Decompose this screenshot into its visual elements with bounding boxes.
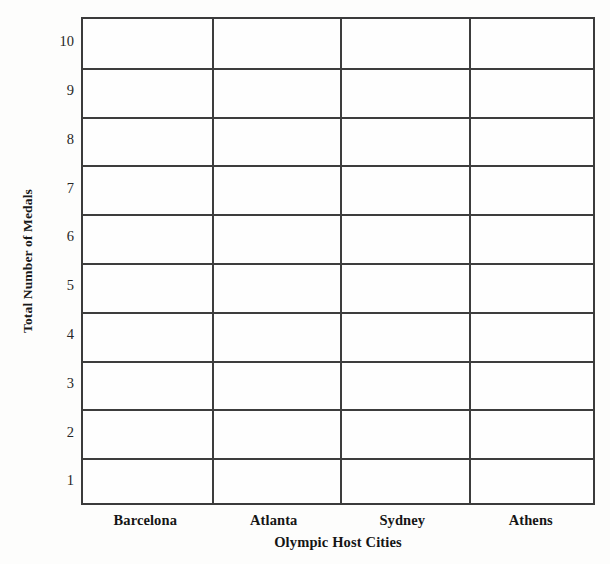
gridline-horizontal	[83, 165, 593, 167]
gridline-horizontal	[83, 361, 593, 363]
x-axis-title: Olympic Host Cities	[81, 534, 595, 551]
gridline-horizontal	[83, 117, 593, 119]
gridline-horizontal	[83, 68, 593, 70]
plot-area	[81, 17, 595, 505]
x-category-label-atlanta: Atlanta	[210, 510, 339, 532]
y-axis-title-wrapper: Total Number of Medals	[20, 505, 50, 564]
y-axis-title: Total Number of Medals	[20, 17, 50, 505]
x-category-label-barcelona: Barcelona	[81, 510, 210, 532]
chart-title-remnant	[150, 0, 480, 3]
x-category-label-sydney: Sydney	[338, 510, 467, 532]
gridline-horizontal	[83, 312, 593, 314]
gridline-vertical	[212, 19, 214, 503]
x-axis-category-labels: Barcelona Atlanta Sydney Athens	[81, 510, 595, 532]
gridline-vertical	[340, 19, 342, 503]
gridline-horizontal	[83, 214, 593, 216]
gridline-horizontal	[83, 263, 593, 265]
bar-chart-worksheet: 10 9 8 7 6 5 4 3 2 1 Total Number of Med…	[0, 0, 610, 564]
gridline-horizontal	[83, 409, 593, 411]
gridline-horizontal	[83, 458, 593, 460]
x-category-label-athens: Athens	[467, 510, 596, 532]
gridline-vertical	[469, 19, 471, 503]
